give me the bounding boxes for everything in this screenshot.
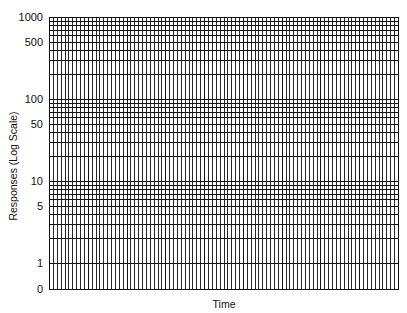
y-tick-1000: 1000 [19,12,43,23]
y-tick-50: 50 [31,118,43,129]
y-tick-0: 0 [37,284,43,295]
x-axis-label: Time [213,298,236,310]
y-tick-100: 100 [25,94,43,105]
y-tick-1: 1 [37,258,43,269]
y-axis-label: Responses (Log Scale) [7,111,19,220]
y-tick-500: 500 [25,36,43,47]
log-scale-chart: 1000 500 100 50 10 5 1 0 Responses (Log … [0,0,407,313]
y-tick-5: 5 [37,200,43,211]
chart-grid [0,0,407,313]
y-tick-10: 10 [31,176,43,187]
